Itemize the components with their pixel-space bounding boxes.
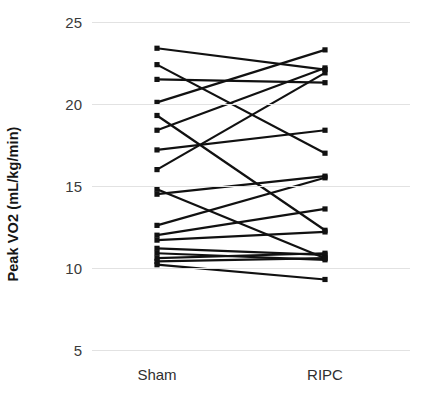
x-tick-label-ripc: RIPC (307, 366, 343, 383)
data-point-marker (154, 246, 159, 251)
y-tick-label-5: 5 (30, 342, 82, 359)
gridline-15 (92, 186, 410, 187)
x-tick-label-sham: Sham (137, 366, 176, 383)
y-tick-label-20: 20 (30, 96, 82, 113)
data-point-marker (154, 77, 159, 82)
data-point-marker (154, 262, 159, 267)
y-tick-label-15: 15 (30, 178, 82, 195)
data-point-marker (322, 229, 327, 234)
data-point-marker (154, 46, 159, 51)
data-point-marker (154, 167, 159, 172)
data-point-marker (322, 80, 327, 85)
y-axis-tick-labels: 252015105 (30, 0, 82, 408)
data-point-marker (154, 113, 159, 118)
data-point-marker (322, 47, 327, 52)
data-point-marker (154, 62, 159, 67)
data-point-marker (154, 128, 159, 133)
data-point-marker (322, 256, 327, 261)
gridline-25 (92, 22, 410, 23)
plot-area: ShamRIPC (92, 0, 410, 408)
paired-lines-group (92, 0, 410, 408)
pair-line (157, 209, 325, 235)
data-point-marker (154, 147, 159, 152)
data-point-marker (322, 151, 327, 156)
data-point-marker (322, 128, 327, 133)
data-point-marker (154, 223, 159, 228)
pair-line (157, 79, 325, 82)
pair-line (157, 265, 325, 280)
y-tick-label-25: 25 (30, 14, 82, 31)
data-point-marker (322, 277, 327, 282)
data-point-marker (322, 70, 327, 75)
gridline-20 (92, 104, 410, 105)
data-point-marker (322, 251, 327, 256)
y-axis-title: Peak VO2 (mL/kg/min) (0, 0, 26, 408)
gridline-5 (92, 350, 410, 351)
data-point-marker (322, 206, 327, 211)
pair-line (157, 189, 325, 258)
pair-line (157, 232, 325, 240)
data-point-marker (154, 187, 159, 192)
data-point-marker (322, 65, 327, 70)
data-point-marker (154, 233, 159, 238)
data-point-marker (154, 238, 159, 243)
y-tick-label-10: 10 (30, 260, 82, 277)
data-point-marker (154, 192, 159, 197)
peak-vo2-paired-chart: Peak VO2 (mL/kg/min) 252015105 ShamRIPC (0, 0, 422, 408)
data-point-marker (322, 175, 327, 180)
gridline-10 (92, 268, 410, 269)
data-point-marker (154, 251, 159, 256)
